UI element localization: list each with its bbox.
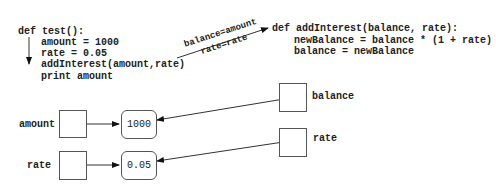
var-label-rate: rate (27, 160, 51, 171)
callee-rate-ref-arrow-icon (157, 141, 290, 161)
var-label-balance: balance (312, 91, 354, 102)
value-box-1000: 1000 (121, 110, 157, 139)
var-box-balance (279, 83, 307, 112)
var-box-callee-rate (279, 128, 307, 157)
callee-line-2: balance = newBalance (294, 46, 414, 57)
var-label-callee-rate: rate (313, 133, 337, 144)
var-box-rate (59, 151, 87, 180)
callee-line-1: newBalance = balance * (1 + rate) (294, 35, 492, 46)
balance-ref-arrow-icon (157, 98, 290, 120)
caller-line-3: addInterest(amount,rate) (41, 59, 185, 70)
caller-line-1: amount = 1000 (41, 37, 119, 48)
value-box-0.05: 0.05 (121, 151, 157, 180)
var-box-amount (59, 110, 87, 138)
callee-def-line: def addInterest(balance, rate): (272, 23, 458, 34)
var-label-amount: amount (19, 119, 55, 130)
caller-line-2: rate = 0.05 (41, 48, 107, 59)
diagram-canvas: balance=amount rate=rate def test(): amo… (0, 0, 496, 190)
caller-def-line: def test(): (18, 26, 84, 37)
caller-line-4: print amount (41, 71, 113, 82)
